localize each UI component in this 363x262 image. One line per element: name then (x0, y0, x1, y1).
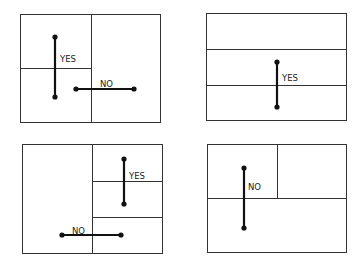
split-segment-yes: YES (274, 59, 298, 109)
endpoint-dot (59, 232, 64, 237)
endpoint-dot (121, 201, 126, 206)
panel-top-left: YESNO (21, 15, 161, 123)
endpoint-dot (73, 86, 78, 91)
panel-top-right: YES (207, 14, 347, 121)
partition-diagram: YESNOYESYESNONO (0, 0, 363, 262)
endpoint-dot (131, 86, 136, 91)
panel-bottom-right: NO (208, 145, 347, 253)
endpoint-dot (241, 225, 246, 230)
split-segment-no: NO (59, 226, 123, 238)
endpoint-dot (121, 156, 126, 161)
segment-label: YES (281, 73, 298, 83)
split-segment-no: NO (73, 79, 136, 92)
segment-label: YES (59, 54, 76, 64)
split-segment-yes: YES (52, 34, 76, 99)
segment-label: NO (248, 182, 261, 192)
endpoint-dot (274, 59, 279, 64)
endpoint-dot (241, 165, 246, 170)
endpoint-dot (52, 34, 57, 39)
segment-label: NO (100, 79, 113, 89)
endpoint-dot (118, 232, 123, 237)
endpoint-dot (52, 94, 57, 99)
panel-bottom-left: YESNO (23, 145, 163, 254)
segment-label: YES (128, 171, 145, 181)
endpoint-dot (274, 104, 279, 109)
segment-label: NO (72, 226, 85, 236)
